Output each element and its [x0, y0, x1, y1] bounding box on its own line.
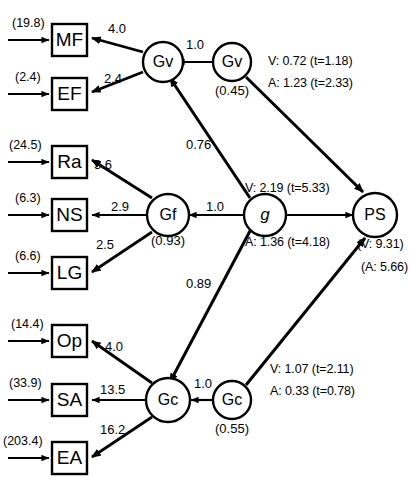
indicator-label-EF: EF: [52, 84, 87, 103]
structural-annot-Gv-PS-a: A: 1.23 (t=2.33): [268, 77, 353, 90]
path-Gv-to-PS: [246, 77, 363, 192]
path-g-to-Gc: [170, 231, 250, 382]
indicator-label-Ra: Ra: [52, 152, 87, 171]
loading-value-Gc-EA: 16.2: [100, 423, 125, 436]
indicator-label-LG: LG: [52, 263, 87, 282]
loading-arrow-Gv-MF: [92, 38, 143, 52]
residual-value-SA: (33.9): [9, 377, 42, 390]
latent-label-Gc: Gc: [148, 392, 188, 408]
diagram-vector-layer: [0, 0, 412, 493]
disturbance-path-Gv: 1.0: [186, 38, 204, 51]
residual-value-MF: (19.8): [12, 17, 45, 30]
g-path-value-Gf: 1.0: [206, 200, 224, 213]
indicator-label-NS: NS: [52, 205, 87, 224]
outcome-label-PS: PS: [355, 207, 395, 223]
loading-value-Gv-EF: 2.4: [104, 72, 122, 85]
structural-annot-Gc-PS-v: V: 1.07 (t=2.11): [270, 363, 354, 376]
latent-label-Gf: Gf: [148, 207, 188, 223]
path-diagram-canvas: (19.8) (2.4) (24.5) (6.3) (6.6) (14.4) (…: [0, 0, 412, 493]
disturbance-value-Gf: (0.93): [146, 234, 190, 247]
disturbance-path-Gc: 1.0: [194, 377, 212, 390]
residual-value-EA: (203.4): [3, 435, 43, 448]
residual-value-Op: (14.4): [11, 318, 44, 331]
indicator-label-MF: MF: [52, 30, 87, 49]
outcome-residual-v: (V: 9.31): [357, 238, 404, 251]
disturbance-value-Gv: (0.45): [210, 84, 254, 97]
outcome-residual-a: (A: 5.66): [361, 261, 408, 274]
loading-value-Gf-LG: 2.5: [96, 238, 114, 251]
indicator-label-Op: Op: [52, 331, 87, 350]
loading-value-Gf-Ra: 3.6: [94, 158, 112, 171]
residual-value-EF: (2.4): [15, 71, 41, 84]
disturbance-label-Gc: Gc: [212, 392, 252, 408]
structural-annot-Gv-PS-v: V: 0.72 (t=1.18): [268, 55, 352, 68]
indicator-label-SA: SA: [52, 390, 87, 409]
disturbance-value-Gc: (0.55): [210, 422, 254, 435]
loading-value-Gf-NS: 2.9: [111, 200, 129, 213]
disturbance-label-Gv: Gv: [212, 54, 252, 70]
g-path-value-Gv: 0.76: [186, 138, 211, 151]
indicator-label-EA: EA: [52, 448, 87, 467]
structural-annot-g-PS-a: A: 1.36 (t=4.18): [245, 236, 330, 249]
structural-annot-Gc-PS-a: A: 0.33 (t=0.78): [270, 385, 355, 398]
loading-value-Gc-SA: 13.5: [100, 383, 125, 396]
residual-value-NS: (6.3): [15, 192, 41, 205]
latent-label-Gv: Gv: [143, 54, 183, 70]
structural-annot-g-PS-v: V: 2.19 (t=5.33): [245, 182, 329, 195]
latent-label-g: g: [245, 206, 285, 223]
residual-value-LG: (6.6): [15, 250, 41, 263]
g-path-value-Gc: 0.89: [186, 277, 211, 290]
loading-value-Gv-MF: 4.0: [108, 22, 126, 35]
loading-value-Gc-Op: 4.0: [105, 340, 123, 353]
residual-value-Ra: (24.5): [9, 139, 42, 152]
